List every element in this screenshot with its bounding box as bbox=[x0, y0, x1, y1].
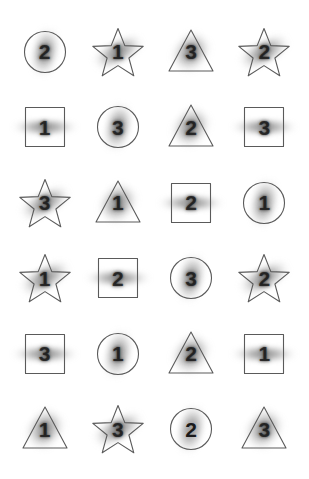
grid-cell: 1 bbox=[8, 90, 81, 166]
star-shape-3: 3 bbox=[17, 175, 73, 231]
digit-label: 1 bbox=[112, 343, 124, 364]
circle-shape-1: 1 bbox=[236, 175, 292, 231]
digit-label: 1 bbox=[112, 41, 124, 62]
star-shape-1: 1 bbox=[90, 24, 146, 80]
star-shape-3: 3 bbox=[90, 401, 146, 457]
digit-label: 2 bbox=[112, 268, 124, 289]
grid-cell: 2 bbox=[228, 241, 301, 317]
grid-cell: 3 bbox=[155, 14, 228, 90]
triangle-shape-2: 2 bbox=[163, 99, 219, 155]
digit-label: 3 bbox=[185, 268, 197, 289]
digit-label: 1 bbox=[259, 192, 271, 213]
digit-label: 3 bbox=[39, 343, 51, 364]
grid-cell: 1 bbox=[81, 14, 154, 90]
grid-cell: 3 bbox=[8, 165, 81, 241]
circle-shape-3: 3 bbox=[163, 250, 219, 306]
digit-label: 2 bbox=[259, 41, 271, 62]
triangle-shape-1: 1 bbox=[90, 175, 146, 231]
square-shape-2: 2 bbox=[90, 250, 146, 306]
digit-label: 1 bbox=[112, 192, 124, 213]
triangle-shape-2: 2 bbox=[163, 326, 219, 382]
grid-cell: 2 bbox=[155, 392, 228, 468]
grid-cell: 2 bbox=[155, 316, 228, 392]
star-shape-2: 2 bbox=[236, 24, 292, 80]
square-shape-2: 2 bbox=[163, 175, 219, 231]
digit-label: 3 bbox=[39, 192, 51, 213]
triangle-shape-1: 1 bbox=[17, 401, 73, 457]
triangle-shape-3: 3 bbox=[163, 24, 219, 80]
square-shape-1: 1 bbox=[17, 99, 73, 155]
digit-label: 2 bbox=[39, 41, 51, 62]
grid-cell: 3 bbox=[81, 90, 154, 166]
digit-label: 1 bbox=[259, 343, 271, 364]
grid-cell: 2 bbox=[81, 241, 154, 317]
star-shape-2: 2 bbox=[236, 250, 292, 306]
circle-shape-2: 2 bbox=[17, 24, 73, 80]
grid-cell: 1 bbox=[8, 392, 81, 468]
square-shape-3: 3 bbox=[236, 99, 292, 155]
circle-shape-2: 2 bbox=[163, 401, 219, 457]
grid-cell: 1 bbox=[228, 316, 301, 392]
grid-cell: 2 bbox=[155, 165, 228, 241]
circle-shape-3: 3 bbox=[90, 99, 146, 155]
digit-label: 2 bbox=[185, 117, 197, 138]
grid-cell: 3 bbox=[8, 316, 81, 392]
digit-label: 3 bbox=[259, 419, 271, 440]
digit-label: 1 bbox=[39, 117, 51, 138]
grid-cell: 3 bbox=[228, 392, 301, 468]
digit-label: 2 bbox=[185, 419, 197, 440]
digit-label: 3 bbox=[185, 41, 197, 62]
digit-label: 3 bbox=[112, 419, 124, 440]
grid-cell: 3 bbox=[81, 392, 154, 468]
square-shape-3: 3 bbox=[17, 326, 73, 382]
shape-digit-grid: 213213233121123231211323 bbox=[0, 0, 309, 479]
digit-label: 2 bbox=[185, 343, 197, 364]
grid-cell: 2 bbox=[228, 14, 301, 90]
digit-label: 3 bbox=[259, 117, 271, 138]
digit-label: 2 bbox=[259, 268, 271, 289]
grid-cell: 1 bbox=[81, 165, 154, 241]
digit-label: 1 bbox=[39, 268, 51, 289]
digit-label: 2 bbox=[185, 192, 197, 213]
circle-shape-1: 1 bbox=[90, 326, 146, 382]
triangle-shape-3: 3 bbox=[236, 401, 292, 457]
square-shape-1: 1 bbox=[236, 326, 292, 382]
grid-cell: 1 bbox=[8, 241, 81, 317]
grid-cell: 1 bbox=[81, 316, 154, 392]
digit-label: 3 bbox=[112, 117, 124, 138]
star-shape-1: 1 bbox=[17, 250, 73, 306]
digit-label: 1 bbox=[39, 419, 51, 440]
grid-cell: 3 bbox=[155, 241, 228, 317]
grid-cell: 2 bbox=[155, 90, 228, 166]
grid-cell: 3 bbox=[228, 90, 301, 166]
grid-cell: 1 bbox=[228, 165, 301, 241]
grid-cell: 2 bbox=[8, 14, 81, 90]
